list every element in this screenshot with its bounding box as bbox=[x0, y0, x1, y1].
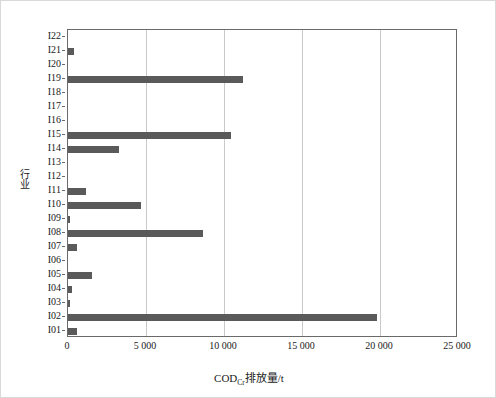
y-tick-mark bbox=[62, 134, 65, 135]
y-tick-mark bbox=[62, 190, 65, 191]
y-tick-mark bbox=[62, 64, 65, 65]
bar-I21 bbox=[68, 48, 74, 55]
y-tick-mark bbox=[62, 204, 65, 205]
y-tick-label-I20: I20 bbox=[48, 59, 61, 69]
y-tick-label-I16: I16 bbox=[48, 115, 61, 125]
x-tick-label-25000: 25 000 bbox=[443, 340, 471, 352]
bar-I08 bbox=[68, 230, 203, 237]
x-tick-label-10000: 10 000 bbox=[209, 340, 237, 352]
y-tick-label-I03: I03 bbox=[48, 297, 61, 307]
y-tick-label-I17: I17 bbox=[48, 101, 61, 111]
y-tick-mark bbox=[62, 36, 65, 37]
y-tick-mark bbox=[62, 330, 65, 331]
bar-I09 bbox=[68, 216, 70, 223]
x-axis-tick-labels: 05 00010 00015 00020 00025 000 bbox=[1, 340, 496, 356]
y-tick-label-I15: I15 bbox=[48, 129, 61, 139]
y-tick-mark bbox=[62, 218, 65, 219]
y-tick-mark bbox=[62, 92, 65, 93]
y-tick-mark bbox=[62, 120, 65, 121]
bar-I03 bbox=[68, 300, 70, 307]
y-tick-mark bbox=[62, 50, 65, 51]
y-tick-label-I01: I01 bbox=[48, 325, 61, 335]
y-tick-label-I19: I19 bbox=[48, 73, 61, 83]
y-tick-mark bbox=[62, 288, 65, 289]
bar-I02 bbox=[68, 314, 377, 321]
bar-I11 bbox=[68, 188, 86, 195]
y-tick-label-I22: I22 bbox=[48, 31, 61, 41]
y-tick-label-I18: I18 bbox=[48, 87, 61, 97]
bar-I05 bbox=[68, 272, 92, 279]
x-tick-label-15000: 15 000 bbox=[287, 340, 315, 352]
y-tick-mark bbox=[62, 302, 65, 303]
x-tick-label-5000: 5 000 bbox=[134, 340, 157, 352]
y-axis-tick-labels: I01I02I03I04I05I06I07I08I09I10I11I12I13I… bbox=[29, 29, 65, 337]
bar-I19 bbox=[68, 76, 243, 83]
y-tick-label-I06: I06 bbox=[48, 255, 61, 265]
bar-series bbox=[68, 30, 456, 336]
y-tick-mark bbox=[62, 78, 65, 79]
y-axis-title: 行业 bbox=[7, 169, 29, 189]
y-tick-label-I21: I21 bbox=[48, 45, 61, 55]
y-tick-mark bbox=[62, 316, 65, 317]
y-tick-label-I11: I11 bbox=[48, 185, 61, 195]
bar-I14 bbox=[68, 146, 119, 153]
y-tick-mark bbox=[62, 260, 65, 261]
x-axis-title-main: COD bbox=[214, 372, 237, 384]
y-tick-mark bbox=[62, 176, 65, 177]
y-tick-label-I05: I05 bbox=[48, 269, 61, 279]
bar-I15 bbox=[68, 132, 231, 139]
y-tick-label-I08: I08 bbox=[48, 227, 61, 237]
x-tick-label-0: 0 bbox=[65, 340, 70, 352]
plot-area bbox=[67, 29, 457, 337]
x-axis-title: CODCr排放量/t bbox=[1, 369, 496, 387]
y-tick-mark bbox=[62, 148, 65, 149]
y-tick-label-I02: I02 bbox=[48, 311, 61, 321]
y-tick-label-I12: I12 bbox=[48, 171, 61, 181]
figure-frame: 行业 I01I02I03I04I05I06I07I08I09I10I11I12I… bbox=[0, 0, 496, 398]
bar-I04 bbox=[68, 286, 72, 293]
y-tick-label-I09: I09 bbox=[48, 213, 61, 223]
x-axis-title-subscript: Cr bbox=[237, 378, 245, 387]
y-tick-label-I07: I07 bbox=[48, 241, 61, 251]
y-tick-label-I10: I10 bbox=[48, 199, 61, 209]
y-tick-label-I14: I14 bbox=[48, 143, 61, 153]
y-tick-label-I13: I13 bbox=[48, 157, 61, 167]
y-tick-mark bbox=[62, 274, 65, 275]
y-tick-mark bbox=[62, 232, 65, 233]
bar-I01 bbox=[68, 328, 77, 335]
bar-I07 bbox=[68, 244, 77, 251]
x-tick-label-20000: 20 000 bbox=[365, 340, 393, 352]
y-tick-label-I04: I04 bbox=[48, 283, 61, 293]
y-tick-mark bbox=[62, 106, 65, 107]
y-tick-mark bbox=[62, 162, 65, 163]
bar-I10 bbox=[68, 202, 141, 209]
y-tick-mark bbox=[62, 246, 65, 247]
x-axis-title-tail: 排放量/t bbox=[245, 372, 284, 384]
